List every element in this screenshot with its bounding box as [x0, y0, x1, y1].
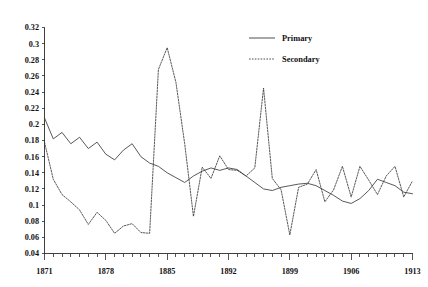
x-tick-label: 1913	[404, 267, 420, 276]
y-tick-label: 0.18	[25, 136, 39, 145]
y-tick-label: 0.32	[25, 23, 39, 32]
y-tick-label: 0.14	[25, 169, 39, 178]
y-tick-label: 0.16	[25, 153, 39, 162]
x-tick-label: 1885	[159, 267, 175, 276]
legend-label-primary: Primary	[282, 34, 313, 43]
y-tick-label: 0.06	[25, 233, 39, 242]
x-tick-label: 1899	[282, 267, 298, 276]
x-tick-label: 1906	[343, 267, 359, 276]
y-axis: 0.040.060.080.10.120.140.160.180.20.220.…	[25, 23, 45, 258]
y-tick-label: 0.26	[25, 72, 39, 81]
y-tick-label: 0.04	[25, 249, 39, 258]
line-chart: 0.040.060.080.10.120.140.160.180.20.220.…	[0, 0, 428, 287]
y-tick-label: 0.08	[25, 217, 39, 226]
y-tick-label: 0.22	[25, 104, 39, 113]
legend-label-secondary: Secondary	[282, 55, 321, 64]
series-line-primary	[45, 118, 413, 204]
series-line-secondary	[45, 48, 413, 235]
y-tick-label: 0.1	[29, 201, 39, 210]
y-tick-label: 0.2	[29, 120, 39, 129]
x-tick-label: 1892	[220, 267, 236, 276]
x-axis: 1871187818851892189919061913	[36, 254, 420, 276]
chart-legend: PrimarySecondary	[249, 34, 321, 64]
y-tick-label: 0.28	[25, 56, 39, 65]
x-tick-label: 1871	[36, 267, 52, 276]
y-tick-label: 0.24	[25, 88, 39, 97]
series-lines	[45, 48, 413, 235]
x-tick-label: 1878	[98, 267, 114, 276]
chart-canvas: 0.040.060.080.10.120.140.160.180.20.220.…	[0, 0, 428, 287]
y-tick-label: 0.12	[25, 185, 39, 194]
y-tick-label: 0.3	[29, 40, 39, 49]
